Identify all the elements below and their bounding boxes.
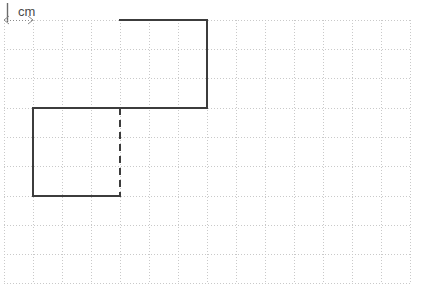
shape-dashed-edges [120, 108, 207, 196]
worksheet-canvas: cm [0, 0, 426, 296]
grid-figure: cm [0, 0, 426, 296]
arrow-left-icon [4, 16, 9, 24]
scale-unit-label: cm [18, 4, 35, 19]
scale-key: cm [4, 3, 35, 24]
